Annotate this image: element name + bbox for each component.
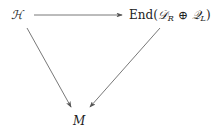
target-prefix: End( [129, 8, 158, 22]
target-d: 𝒟 [158, 8, 168, 22]
target-q: 𝒬 [192, 8, 201, 22]
node-bottom: M [73, 114, 85, 128]
target-op: ⊕ [174, 8, 192, 22]
arrow-target-to-bottom [90, 28, 160, 107]
arrow-source-to-bottom [27, 28, 71, 107]
target-suffix: ) [206, 8, 211, 22]
node-source: ℋ [11, 8, 23, 22]
diagram-canvas: ℋ End(𝒟R ⊕ 𝒬L) M [0, 0, 223, 135]
node-target: End(𝒟R ⊕ 𝒬L) [129, 8, 211, 26]
